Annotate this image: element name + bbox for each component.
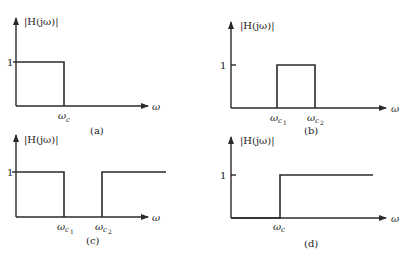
svg-text:2: 2 — [108, 228, 112, 235]
filter-diagram: |H(jω)| 1 ω ω c (a) |H(jω)| 1 ω ω c 1 ω … — [0, 0, 403, 256]
level-one-label: 1 — [7, 57, 13, 68]
bandstop-response-curve-high — [102, 172, 166, 217]
svg-text:ω: ω — [58, 110, 66, 121]
x-axis-label: ω — [391, 103, 399, 114]
y-axis-label: |H(jω)| — [240, 20, 275, 32]
svg-text:1: 1 — [283, 119, 287, 126]
level-one-label: 1 — [7, 167, 13, 178]
cutoff-label-wc2: ω c 2 — [307, 112, 324, 126]
svg-text:c: c — [315, 117, 319, 125]
svg-text:ω: ω — [57, 221, 65, 232]
svg-text:ω: ω — [273, 221, 281, 232]
svg-text:c: c — [103, 226, 107, 234]
svg-text:ω: ω — [270, 112, 278, 123]
panel-c-bandstop: |H(jω)| 1 ω ω c 1 ω c 2 (c) — [7, 134, 166, 246]
x-axis-label: ω — [152, 101, 160, 112]
cutoff-label-wc1: ω c 1 — [270, 112, 287, 126]
panel-a-lowpass: |H(jω)| 1 ω ω c (a) — [7, 16, 160, 136]
x-axis-label: ω — [391, 213, 399, 224]
x-axis-label: ω — [152, 212, 160, 223]
svg-text:c: c — [65, 226, 69, 234]
svg-text:c: c — [278, 117, 282, 125]
svg-text:2: 2 — [320, 119, 324, 126]
cutoff-label-wc: ω c — [273, 221, 285, 234]
svg-text:1: 1 — [70, 228, 74, 235]
highpass-response-curve — [231, 175, 373, 218]
svg-text:ω: ω — [95, 221, 103, 232]
caption-a: (a) — [90, 125, 104, 136]
level-one-label: 1 — [220, 170, 226, 181]
lowpass-response-curve — [16, 62, 64, 106]
caption-c: (c) — [86, 235, 100, 246]
y-axis-label: |H(jω)| — [24, 134, 59, 146]
y-axis-label: |H(jω)| — [240, 135, 275, 147]
bandstop-response-curve-low — [16, 172, 64, 217]
caption-b: (b) — [304, 125, 318, 136]
level-one-label: 1 — [220, 60, 226, 71]
cutoff-label-wc: ω c — [58, 110, 70, 124]
cutoff-label-wc2: ω c 2 — [95, 221, 112, 235]
caption-d: (d) — [304, 238, 318, 249]
svg-text:ω: ω — [307, 112, 315, 123]
cutoff-label-wc1: ω c 1 — [57, 221, 74, 235]
panel-b-bandpass: |H(jω)| 1 ω ω c 1 ω c 2 (b) — [220, 20, 399, 136]
panel-d-highpass: |H(jω)| 1 ω ω c (d) — [220, 135, 399, 249]
svg-text:c: c — [66, 116, 70, 124]
bandpass-response-curve — [277, 65, 315, 108]
svg-text:c: c — [281, 226, 285, 234]
y-axis-label: |H(jω)| — [24, 16, 59, 28]
